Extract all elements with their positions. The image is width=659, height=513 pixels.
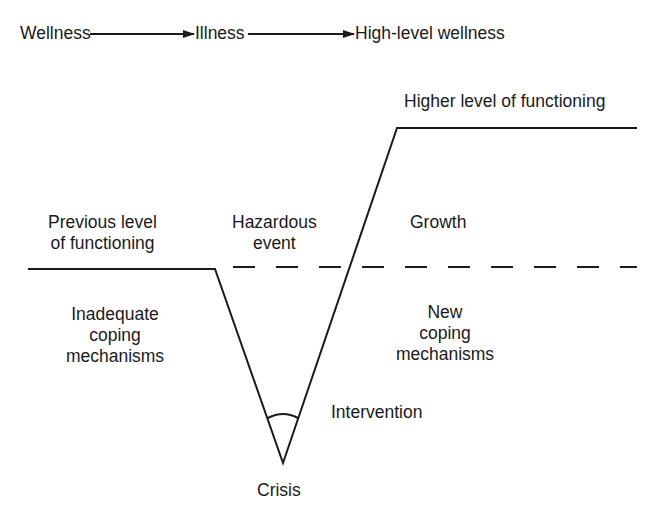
higher-level-label: Higher level of functioning xyxy=(404,91,605,112)
crisis-label: Crisis xyxy=(257,480,301,501)
new-line1: New xyxy=(387,302,503,323)
new-line3: mechanisms xyxy=(387,344,503,365)
flow-step-wellness: Wellness xyxy=(20,23,91,44)
intervention-label: Intervention xyxy=(331,402,422,423)
inadequate-line3: mechanisms xyxy=(57,346,173,367)
inadequate-line1: Inadequate xyxy=(57,304,173,325)
flow-step-illness: Illness xyxy=(195,23,245,44)
crisis-angle-arc xyxy=(268,414,298,418)
previous-level-line1: Previous level xyxy=(48,212,157,233)
flow-step-high-level-wellness: High-level wellness xyxy=(355,23,505,44)
inadequate-coping-label: Inadequate coping mechanisms xyxy=(57,304,173,367)
new-coping-label: New coping mechanisms xyxy=(387,302,503,365)
previous-level-line2: of functioning xyxy=(48,233,157,254)
inadequate-line2: coping xyxy=(57,325,173,346)
previous-level-label: Previous level of functioning xyxy=(48,212,157,254)
new-line2: coping xyxy=(387,323,503,344)
crisis-diagram-lines xyxy=(0,0,659,513)
hazardous-event-label: Hazardous event xyxy=(232,212,317,254)
hazardous-line1: Hazardous xyxy=(232,212,317,233)
growth-label: Growth xyxy=(410,212,466,233)
hazardous-line2: event xyxy=(232,233,317,254)
